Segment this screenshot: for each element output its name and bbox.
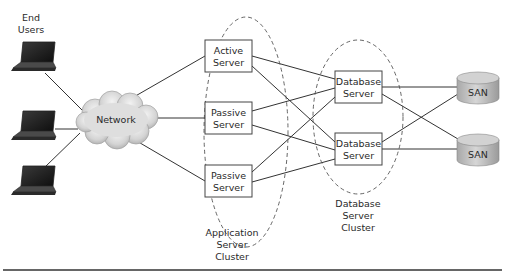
end-users-label-2: Users (18, 24, 45, 35)
link-passive2-db1 (252, 97, 335, 172)
link-active-db2 (252, 66, 335, 142)
app-cluster-label-2: Server (216, 239, 247, 250)
app-cluster-label-1: Application (205, 227, 258, 238)
passive-server-2-label-2: Server (213, 182, 244, 193)
active-server-label-2: Server (213, 57, 244, 68)
passive-server-node-1: Passive Server (205, 102, 252, 134)
db-cluster-label-3: Cluster (341, 222, 375, 233)
db-server-1-label-2: Server (343, 88, 374, 99)
link-passive2-db2 (252, 159, 335, 182)
db-cluster-label-2: Server (342, 210, 373, 221)
laptop-icon (11, 111, 56, 140)
db-server-cluster-boundary (313, 40, 403, 194)
active-server-node: Active Server (205, 40, 252, 72)
db-server-2-label-1: Database (336, 138, 381, 149)
passive-server-1-label-2: Server (213, 119, 244, 130)
end-users-label-1: End (22, 12, 40, 23)
passive-server-1-label-1: Passive (211, 107, 246, 118)
database-server-node-1: Database Server (335, 71, 382, 103)
san-1-label: SAN (468, 87, 488, 98)
network-label: Network (96, 114, 136, 125)
database-server-node-2: Database Server (335, 133, 382, 165)
link-network-active (132, 56, 205, 98)
link-laptop1-network (45, 73, 82, 110)
db-server-1-label-1: Database (336, 76, 381, 87)
db-server-2-label-2: Server (343, 150, 374, 161)
active-server-label-1: Active (214, 45, 244, 56)
link-passive1-db2 (252, 125, 335, 150)
laptop-icon (11, 166, 56, 195)
link-passive1-db1 (252, 88, 335, 111)
network-diagram: End Users Network Active Ser (0, 0, 505, 277)
san-2-label: SAN (468, 149, 488, 160)
db-cluster-label-1: Database (335, 198, 380, 209)
laptop-icon (11, 42, 56, 71)
passive-server-node-2: Passive Server (205, 165, 252, 197)
link-network-passive2 (135, 140, 205, 181)
link-active-db1 (252, 56, 335, 79)
app-cluster-label-3: Cluster (215, 251, 249, 262)
passive-server-2-label-1: Passive (211, 170, 246, 181)
